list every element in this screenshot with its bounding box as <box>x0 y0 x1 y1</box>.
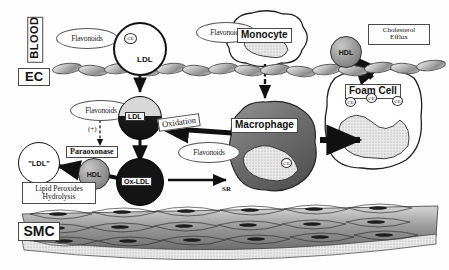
particle-label-ox-ldl: Ox-LDL <box>121 177 152 186</box>
particle-ldl-intima: LDL <box>118 96 162 140</box>
compartment-label-smc: SMC <box>18 222 60 241</box>
particle-label-hdl-paraoxonase: HDL <box>87 171 101 178</box>
smooth-muscle-layer <box>22 204 438 260</box>
process-label-cholesterol-efflux: Cholesterol Efflux <box>368 24 430 45</box>
ce-marker-foam-2: CE <box>366 93 377 103</box>
process-label-paraoxonase: Paraoxonase <box>66 146 118 158</box>
lipid-peroxides-line-2: Hydrolysis <box>25 193 93 201</box>
ce-marker-foam-1: CE <box>345 97 356 107</box>
particle-label-ldl-blood: LDL <box>137 55 153 64</box>
flavonoids-bubble-macrophage: Flavonoids <box>178 142 240 163</box>
ce-marker-macrophage: CE <box>281 158 292 168</box>
compartment-label-ec: EC <box>18 68 50 86</box>
receptor-label-scavenger: SR <box>222 186 231 193</box>
particle-label-ldl-intima: LDL <box>125 112 145 121</box>
particle-ldl-blood: LDL <box>113 22 167 76</box>
receptor-label-efflux: uc <box>362 72 367 77</box>
compartment-label-blood: BLOOD <box>27 17 43 63</box>
particle-label-ldl-restored: "LDL" <box>28 159 50 168</box>
activation-sign: (+) <box>88 126 97 133</box>
figure-canvas: BLOOD EC SMC Flavonoids Flavonoids Flavo… <box>0 0 449 270</box>
cell-label-macrophage: Macrophage <box>231 118 298 133</box>
particle-label-hdl-efflux: HDL <box>339 49 353 56</box>
cholesterol-efflux-line-2: Efflux <box>371 34 427 41</box>
cell-label-monocyte: Monocyte <box>237 28 292 43</box>
particle-hdl-efflux: HDL <box>330 36 362 68</box>
macrophage-cell <box>229 101 316 190</box>
flavonoids-bubble-blood: Flavonoids <box>56 28 118 49</box>
particle-ox-ldl: Ox-LDL <box>116 158 164 206</box>
ce-marker-foam-3: CE <box>392 96 403 106</box>
process-label-lipid-peroxides-hydrolysis: Lipid Peroxides Hydrolysis <box>22 182 96 204</box>
ce-marker-ldl-blood: CE <box>124 33 137 44</box>
particle-ldl-restored: "LDL" <box>18 142 60 184</box>
